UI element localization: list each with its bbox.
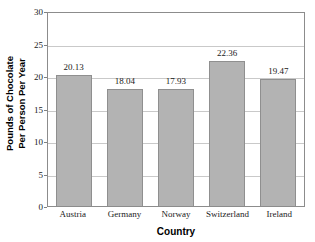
x-axis-tick-label: Germany xyxy=(99,209,151,219)
y-axis-tick-mark xyxy=(44,175,47,176)
x-axis-tick-label: Austria xyxy=(47,209,99,219)
y-axis-tick-label: 10 xyxy=(28,137,43,147)
y-axis-tick-mark xyxy=(44,207,47,208)
bar xyxy=(260,79,296,206)
plot-area: 20.1318.0417.9322.3619.47 xyxy=(47,12,305,207)
bar-group: 19.47 xyxy=(253,13,304,206)
x-axis-tick-labels: AustriaGermanyNorwaySwitzerlandIreland xyxy=(47,209,305,224)
y-axis-title-line-1: Pounds of Chocolate xyxy=(4,56,16,151)
y-axis-tick-labels: 051015202530 xyxy=(28,0,43,212)
bar xyxy=(209,61,245,206)
y-axis-tick-label: 5 xyxy=(28,170,43,180)
bar-group: 17.93 xyxy=(150,13,201,206)
y-axis-tick-mark xyxy=(44,77,47,78)
bars-layer: 20.1318.0417.9322.3619.47 xyxy=(48,13,304,206)
x-axis-tick-label: Switzerland xyxy=(202,209,254,219)
bar xyxy=(107,89,143,206)
bar-group: 20.13 xyxy=(48,13,99,206)
bar-value-label: 19.47 xyxy=(253,66,304,76)
bar-group: 22.36 xyxy=(202,13,253,206)
bar-chart: Pounds of Chocolate Per Person Per Year … xyxy=(0,0,315,242)
y-axis-tick-label: 15 xyxy=(28,105,43,115)
y-axis-tick-mark xyxy=(44,110,47,111)
bar-value-label: 18.04 xyxy=(99,76,150,86)
bar xyxy=(158,89,194,206)
y-axis-tick-label: 30 xyxy=(28,7,43,17)
bar-value-label: 17.93 xyxy=(150,76,201,86)
bar-value-label: 20.13 xyxy=(48,62,99,72)
y-axis-tick-label: 0 xyxy=(28,202,43,212)
y-axis-tick-mark xyxy=(44,45,47,46)
x-axis-tick-label: Ireland xyxy=(253,209,305,219)
y-axis-tick-mark xyxy=(44,142,47,143)
bar-value-label: 22.36 xyxy=(202,48,253,58)
y-axis-title-line-2: Per Person Per Year xyxy=(15,56,27,151)
bar xyxy=(56,75,92,206)
y-axis-tick-label: 25 xyxy=(28,40,43,50)
y-axis-title: Pounds of Chocolate Per Person Per Year xyxy=(0,0,30,207)
x-axis-tick-label: Norway xyxy=(150,209,202,219)
bar-group: 18.04 xyxy=(99,13,150,206)
x-axis-title: Country xyxy=(47,226,305,237)
y-axis-tick-label: 20 xyxy=(28,72,43,82)
y-axis-tick-mark xyxy=(44,12,47,13)
